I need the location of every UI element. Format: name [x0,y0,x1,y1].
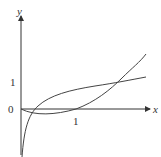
y-tick-label: 1 [10,76,16,88]
x-axis-label: x [152,103,158,115]
logarithmic-curve [22,77,146,157]
origin-label: 0 [8,103,14,115]
x-tick-label: 1 [73,115,79,127]
graph: y x 0 1 1 [0,0,161,157]
y-axis-label: y [16,5,22,17]
